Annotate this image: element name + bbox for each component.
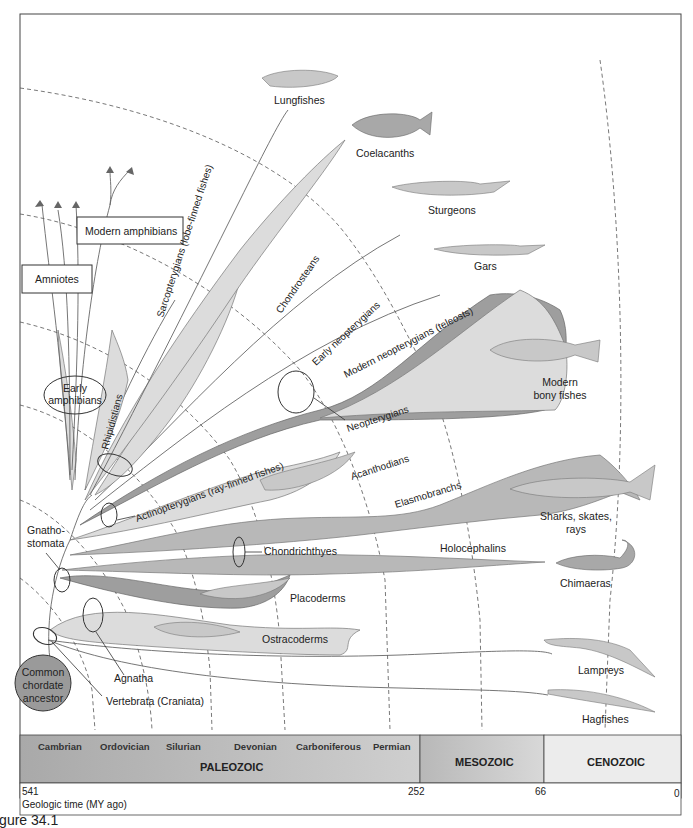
modern-bony-fishes-label-1: Modern	[542, 376, 578, 388]
agnatha-label: Agnatha	[114, 672, 153, 684]
hagfishes-label: Hagfishes	[582, 713, 629, 725]
lampreys-label: Lampreys	[578, 664, 624, 676]
chimaeras-label: Chimaeras	[560, 577, 611, 589]
period-carboniferous: Carboniferous	[296, 741, 361, 752]
period-cambrian: Cambrian	[38, 741, 82, 752]
axis-label: Geologic time (MY ago)	[22, 799, 127, 810]
modern-amphibians-label: Modern amphibians	[85, 225, 177, 237]
tick-541: 541	[22, 786, 39, 797]
gnathostomata-label-2: stomata	[27, 537, 65, 549]
sturgeons-label: Sturgeons	[428, 204, 476, 216]
phylogeny-diagram: Common chordate ancestor Modern amphibia…	[0, 0, 693, 828]
amniotes-label: Amniotes	[35, 273, 79, 285]
era-paleozoic: PALEOZOIC	[200, 761, 263, 773]
gnathostomata-label-1: Gnatho-	[27, 524, 65, 536]
vertebrata-label: Vertebrata (Craniata)	[106, 695, 204, 707]
ostracoderms-label: Ostracoderms	[262, 633, 328, 645]
holocephalins-label: Holocephalins	[440, 542, 506, 554]
figure-caption: igure 34.1	[0, 812, 58, 828]
placoderms-label: Placoderms	[290, 592, 345, 604]
coelacanths-label: Coelacanths	[356, 147, 414, 159]
timeline: Cambrian Ordovician Silurian Devonian Ca…	[20, 735, 681, 815]
sharks-label-1: Sharks, skates,	[540, 510, 612, 522]
period-ordovician: Ordovician	[100, 741, 150, 752]
period-silurian: Silurian	[166, 741, 201, 752]
early-amphibians-label-2: amphibians	[48, 394, 102, 406]
early-amphibians-label-1: Early	[63, 382, 88, 394]
period-permian: Permian	[373, 741, 411, 752]
era-cenozoic: CENOZOIC	[587, 756, 645, 768]
era-mesozoic: MESOZOIC	[455, 756, 514, 768]
tick-0: 0	[674, 788, 680, 799]
period-devonian: Devonian	[234, 741, 277, 752]
tick-252: 252	[408, 786, 425, 797]
common-ancestor-label-2: chordate	[23, 679, 64, 691]
common-ancestor-label-1: Common	[22, 666, 65, 678]
tick-66: 66	[535, 786, 547, 797]
modern-bony-fishes-label-2: bony fishes	[533, 389, 586, 401]
sharks-label-2: rays	[566, 523, 586, 535]
chondrichthyes-label: Chondrichthyes	[264, 545, 337, 557]
lungfishes-label: Lungfishes	[274, 94, 325, 106]
common-ancestor-label-3: ancestor	[23, 692, 64, 704]
gars-label: Gars	[474, 260, 497, 272]
